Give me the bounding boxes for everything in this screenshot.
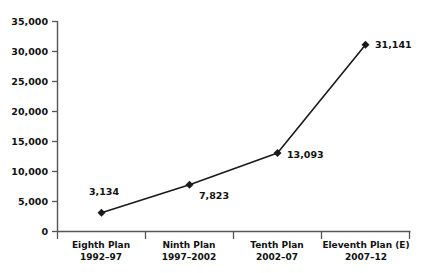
x-tick-label-tenth-plan: Tenth Plan 2002–07 xyxy=(233,240,321,263)
y-tick-label: 5,000 xyxy=(4,196,48,207)
x-tick-label-line2: 1997–2002 xyxy=(145,252,233,264)
y-tick-label: 0 xyxy=(4,226,48,237)
data-point-marker xyxy=(98,209,106,217)
x-axis-ticks xyxy=(58,232,410,240)
x-tick-label-line1: Eighth Plan xyxy=(57,240,145,252)
data-point-label-eleventh-plan: 31,141 xyxy=(375,39,412,50)
y-tick-label: 20,000 xyxy=(4,106,48,117)
data-point-label-tenth-plan: 13,093 xyxy=(287,149,324,160)
y-tick-label: 35,000 xyxy=(4,16,48,27)
x-tick-label-eighth-plan: Eighth Plan 1992–97 xyxy=(57,240,145,263)
data-series-line xyxy=(102,45,366,213)
x-tick-label-eleventh-plan: Eleventh Plan (E) 2007–12 xyxy=(321,240,411,263)
y-axis-ticks xyxy=(52,22,58,232)
line-chart: 35,000 30,000 25,000 20,000 15,000 10,00… xyxy=(0,0,421,273)
x-tick-label-line2: 2007–12 xyxy=(321,252,411,264)
data-point-markers xyxy=(98,41,370,217)
x-tick-label-line1: Eleventh Plan (E) xyxy=(321,240,411,252)
x-tick-label-line1: Tenth Plan xyxy=(233,240,321,252)
x-tick-label-line2: 1992–97 xyxy=(57,252,145,264)
chart-plot-area xyxy=(0,0,421,273)
x-tick-label-ninth-plan: Ninth Plan 1997–2002 xyxy=(145,240,233,263)
y-tick-label: 10,000 xyxy=(4,166,48,177)
data-point-marker xyxy=(186,181,194,189)
data-point-label-eighth-plan: 3,134 xyxy=(89,186,119,197)
y-tick-label: 30,000 xyxy=(4,46,48,57)
y-tick-label: 15,000 xyxy=(4,136,48,147)
data-point-label-ninth-plan: 7,823 xyxy=(199,190,229,201)
x-tick-label-line1: Ninth Plan xyxy=(145,240,233,252)
y-tick-label: 25,000 xyxy=(4,76,48,87)
x-tick-label-line2: 2002–07 xyxy=(233,252,321,264)
